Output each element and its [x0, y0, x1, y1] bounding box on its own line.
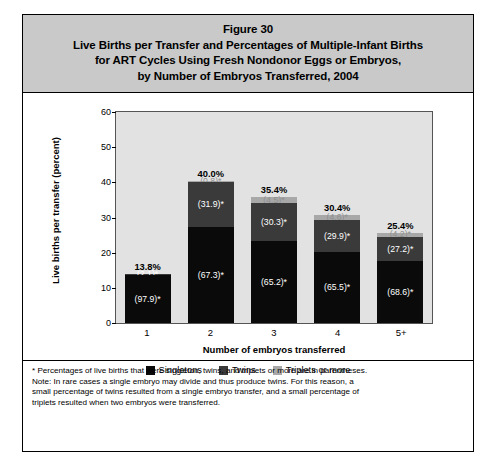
y-axis-tick: 40 [101, 177, 116, 187]
x-axis-tick: 4 [315, 327, 361, 338]
chart-area: Live births per transfer (percent) 01020… [23, 93, 473, 383]
bar-segment-label: (97.9)* [135, 295, 161, 304]
footnote-asterisk: * Percentages of live births that were s… [32, 366, 464, 377]
bar-group: 13.8%(2.1)*(97.9)*40.0%(0.8)*(31.9)*(67.… [116, 112, 432, 323]
x-axis-tick: 2 [187, 327, 233, 338]
bar-slot: 13.8%(2.1)*(97.9)* [125, 112, 171, 323]
figure-container: Figure 30 Live Births per Transfer and P… [22, 14, 474, 452]
bar-segment-label: (31.9)* [198, 200, 224, 209]
x-axis-tick: 1 [124, 327, 170, 338]
bar-segment-twins[interactable]: (30.3)* [251, 203, 297, 241]
footnote-note-line-1: Note: In rare cases a single embryo may … [32, 377, 464, 388]
plot-area: 0102030405060 13.8%(2.1)*(97.9)*40.0%(0.… [115, 111, 433, 324]
x-axis-tick: 3 [251, 327, 297, 338]
bar-total-label: 35.4% [261, 185, 287, 195]
bar-segment-label: (27.2)* [387, 245, 413, 254]
bar-segment-twins[interactable]: (29.9)* [314, 220, 360, 252]
stacked-bar[interactable]: 40.0%(0.8)*(31.9)*(67.3)* [188, 181, 234, 323]
bar-slot: 35.4%(4.5)*(30.3)*(65.2)* [251, 112, 297, 323]
figure-title-line-3: by Number of Embryos Transferred, 2004 [31, 69, 465, 85]
stacked-bar[interactable]: 25.4%(4.2)*(27.2)*(68.6)* [377, 233, 423, 323]
bar-segment-label: (67.3)* [198, 271, 224, 280]
x-axis-ticks: 12345+ [115, 327, 433, 338]
bar-segment-label: (30.3)* [261, 218, 287, 227]
bar-segment-label: (65.2)* [261, 278, 287, 287]
y-axis-tick: 20 [101, 248, 116, 258]
bar-segment-label: (65.5)* [324, 283, 350, 292]
figure-title-line-1: Live Births per Transfer and Percentages… [31, 38, 465, 54]
stacked-bar[interactable]: 13.8%(2.1)*(97.9)* [125, 274, 171, 323]
footnotes: * Percentages of live births that were s… [23, 360, 473, 408]
figure-number: Figure 30 [31, 22, 465, 38]
bar-slot: 30.4%(4.6)*(29.9)*(65.5)* [314, 112, 360, 323]
figure-title-line-2: for ART Cycles Using Fresh Nondonor Eggs… [31, 53, 465, 69]
bar-slot: 40.0%(0.8)*(31.9)*(67.3)* [188, 112, 234, 323]
bar-segment-twins[interactable]: (27.2)* [377, 237, 423, 262]
bar-slot: 25.4%(4.2)*(27.2)*(68.6)* [377, 112, 423, 323]
bar-segment-label: (68.6)* [387, 288, 413, 297]
y-axis-label: Live births per transfer (percent) [50, 116, 61, 306]
y-axis-tick: 60 [101, 107, 116, 117]
bar-segment-singletons[interactable]: (68.6)* [377, 261, 423, 323]
x-axis-label: Number of embryos transferred [115, 344, 433, 355]
stacked-bar[interactable]: 35.4%(4.5)*(30.3)*(65.2)* [251, 197, 297, 323]
figure-title-band: Figure 30 Live Births per Transfer and P… [23, 15, 473, 93]
bar-segment-singletons[interactable]: (97.9)* [125, 275, 171, 323]
x-axis-tick: 5+ [378, 327, 424, 338]
y-axis-tick: 10 [101, 283, 116, 293]
bar-segment-label: (29.9)* [324, 232, 350, 241]
y-axis-tick: 30 [101, 213, 116, 223]
bar-segment-twins[interactable]: (31.9)* [188, 182, 234, 227]
bar-segment-singletons[interactable]: (67.3)* [188, 227, 234, 323]
y-axis-tick: 50 [101, 142, 116, 152]
bar-segment-singletons[interactable]: (65.5)* [314, 252, 360, 323]
stacked-bar[interactable]: 30.4%(4.6)*(29.9)*(65.5)* [314, 215, 360, 323]
footnote-note-line-2: small percentage of twins resulted from … [32, 387, 464, 398]
bar-segment-singletons[interactable]: (65.2)* [251, 241, 297, 323]
footnote-note-line-3: triplets resulted when two embryos were … [32, 398, 464, 409]
